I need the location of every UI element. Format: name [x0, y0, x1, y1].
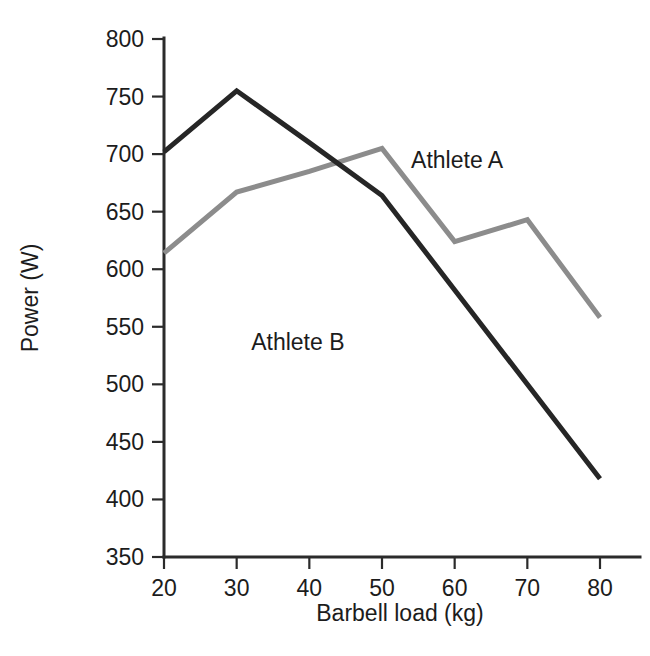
y-tick-label-500: 500 [106, 371, 144, 397]
chart-figure: 350400450500550600650700750800 203040506… [0, 0, 650, 656]
y-axis-title: Power (W) [17, 244, 43, 353]
x-axis-title: Barbell load (kg) [316, 600, 483, 626]
series-label-athlete-a: Athlete A [411, 147, 504, 173]
y-tick-label-650: 650 [106, 199, 144, 225]
series-label-athlete-b: Athlete B [251, 329, 344, 355]
x-tick-label-40: 40 [297, 575, 323, 601]
series-line-athlete-a [164, 148, 600, 317]
x-axis-ticks [164, 557, 600, 569]
y-tick-label-450: 450 [106, 429, 144, 455]
y-tick-label-400: 400 [106, 486, 144, 512]
y-tick-label-700: 700 [106, 141, 144, 167]
y-tick-label-350: 350 [106, 544, 144, 570]
line-chart-canvas: 350400450500550600650700750800 203040506… [0, 0, 650, 656]
y-tick-label-600: 600 [106, 256, 144, 282]
x-tick-label-20: 20 [151, 575, 177, 601]
y-axis-tick-labels: 350400450500550600650700750800 [106, 26, 144, 570]
x-axis-tick-labels: 20304050607080 [151, 575, 613, 601]
y-tick-label-800: 800 [106, 26, 144, 52]
x-tick-label-30: 30 [224, 575, 250, 601]
series-group [164, 91, 600, 479]
x-tick-label-60: 60 [442, 575, 468, 601]
x-tick-label-80: 80 [587, 575, 613, 601]
y-tick-label-550: 550 [106, 314, 144, 340]
y-tick-label-750: 750 [106, 84, 144, 110]
x-tick-label-50: 50 [369, 575, 395, 601]
x-tick-label-70: 70 [515, 575, 541, 601]
y-axis-ticks [152, 39, 164, 557]
